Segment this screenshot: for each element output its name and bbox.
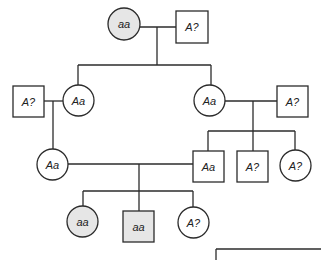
- female-individual: Aa: [194, 85, 225, 116]
- genotype-label: A?: [285, 96, 300, 108]
- male-individual: Aa: [193, 151, 224, 182]
- genotype-label: Aa: [71, 95, 85, 107]
- genotype-label: Aa: [201, 161, 215, 173]
- female-individual: A?: [280, 150, 311, 181]
- genotype-label: A?: [184, 21, 199, 33]
- genotype-label: aa: [76, 216, 88, 228]
- individuals: aaA?A?AaAaA?AaAaA?A?aaaaA?: [13, 8, 311, 242]
- genotype-label: A?: [186, 217, 201, 229]
- female-individual: aa: [67, 206, 98, 237]
- genotype-label: A?: [288, 160, 303, 172]
- male-individual: A?: [176, 11, 208, 43]
- female-individual: aa: [108, 8, 140, 40]
- pedigree-diagram: aaA?A?AaAaA?AaAaA?A?aaaaA?: [0, 0, 321, 260]
- genotype-label: A?: [245, 161, 260, 173]
- genotype-label: Aa: [45, 159, 59, 171]
- genotype-label: aa: [118, 18, 130, 30]
- female-individual: Aa: [37, 149, 68, 180]
- genotype-label: Aa: [202, 95, 216, 107]
- male-individual: A?: [13, 86, 44, 117]
- male-individual: aa: [123, 211, 154, 242]
- genotype-label: A?: [21, 96, 36, 108]
- male-individual: A?: [277, 86, 308, 117]
- male-individual: A?: [237, 151, 268, 182]
- genotype-label: aa: [132, 221, 144, 233]
- female-individual: A?: [178, 207, 209, 238]
- female-individual: Aa: [63, 85, 94, 116]
